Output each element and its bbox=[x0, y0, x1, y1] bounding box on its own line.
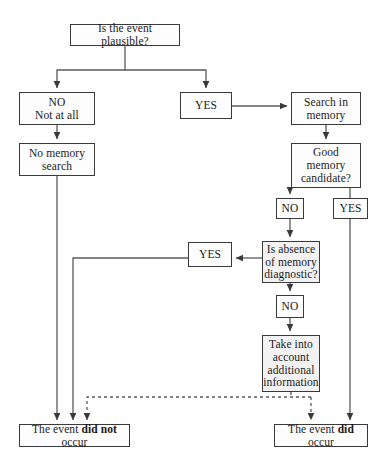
node-no-absence-diagnostic: NO bbox=[276, 295, 304, 318]
node-take-into-account-additional-information: Take into account additional information bbox=[262, 335, 320, 392]
did-not-occur-emphasis: did not bbox=[82, 423, 118, 435]
did-occur-suffix: occur bbox=[308, 436, 334, 448]
node-label-search-in-memory: Search in memory bbox=[292, 96, 360, 122]
edge-question-to-no-at-all bbox=[57, 46, 125, 88]
node-no-not-at-all: NO Not at all bbox=[19, 92, 95, 125]
node-label-event-did-occur: The event did occur bbox=[275, 423, 367, 449]
node-label-event-did-not-occur: The event did not occur bbox=[20, 423, 129, 449]
edge-yes-left-to-did-not-occur bbox=[73, 258, 188, 420]
node-yes-plausible: YES bbox=[180, 92, 232, 119]
did-occur-prefix: The event bbox=[288, 423, 338, 435]
node-label-is-absence-of-memory-diagnostic: Is absence of memory diagnostic? bbox=[262, 243, 319, 282]
did-occur-emphasis: did bbox=[338, 423, 354, 435]
node-label-yes-plausible: YES bbox=[181, 99, 231, 112]
edge-dashed-bus-to-did-not-occur bbox=[87, 397, 311, 420]
flowchart-edges-layer bbox=[0, 0, 389, 462]
node-is-absence-of-memory-diagnostic: Is absence of memory diagnostic? bbox=[262, 241, 320, 283]
node-label-no-memory-search: No memory search bbox=[20, 147, 94, 173]
node-no-memory-candidate: NO bbox=[276, 198, 304, 219]
node-label-yes-memory-candidate: YES bbox=[334, 202, 367, 215]
node-label-yes-absence-diagnostic: YES bbox=[189, 248, 231, 261]
node-label-take-into-account-additional-information: Take into account additional information bbox=[261, 338, 320, 390]
node-label-no-absence-diagnostic: NO bbox=[277, 300, 303, 313]
did-not-occur-prefix: The event bbox=[32, 423, 82, 435]
node-yes-memory-candidate: YES bbox=[333, 198, 368, 219]
did-not-occur-suffix: occur bbox=[61, 436, 87, 448]
node-search-in-memory: Search in memory bbox=[291, 92, 361, 125]
node-label-good-memory-candidate: Good memory candidate? bbox=[292, 146, 360, 185]
node-label-is-event-plausible: Is the event plausible? bbox=[71, 22, 179, 48]
node-event-did-occur: The event did occur bbox=[274, 424, 368, 447]
node-label-no-not-at-all: NO Not at all bbox=[20, 96, 94, 122]
node-good-memory-candidate: Good memory candidate? bbox=[291, 143, 361, 188]
flowchart-diagram: Is the event plausible? NO Not at all YE… bbox=[0, 0, 389, 462]
node-event-did-not-occur: The event did not occur bbox=[19, 424, 130, 447]
node-yes-absence-diagnostic: YES bbox=[188, 242, 232, 267]
node-label-no-memory-candidate: NO bbox=[277, 202, 303, 215]
node-no-memory-search: No memory search bbox=[19, 143, 95, 176]
edge-question-to-yes-top bbox=[125, 70, 206, 88]
node-is-event-plausible: Is the event plausible? bbox=[70, 24, 180, 46]
